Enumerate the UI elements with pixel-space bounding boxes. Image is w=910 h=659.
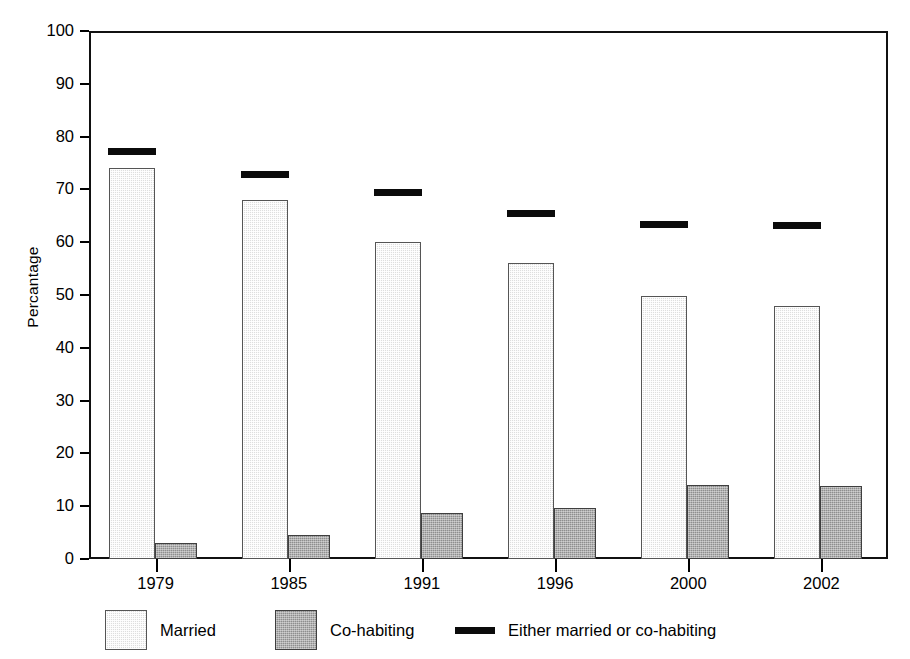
y-axis-tick-mark: [80, 505, 89, 507]
x-axis-tick-label: 1996: [510, 574, 600, 593]
y-axis-tick-mark: [80, 347, 89, 349]
y-axis-tick-label: 0: [28, 550, 74, 566]
x-axis-tick-mark: [289, 559, 291, 572]
legend-label: Co-habiting: [330, 621, 414, 640]
bar-cohabiting: [288, 535, 330, 559]
y-axis-tick-mark: [80, 188, 89, 190]
y-axis-tick-label: 40: [28, 339, 74, 355]
x-axis-tick-label: 1991: [377, 574, 467, 593]
legend-item: Co-habiting: [275, 607, 414, 653]
bar-cohabiting: [155, 543, 197, 559]
y-axis-tick-mark: [80, 452, 89, 454]
y-axis-tick-mark: [80, 294, 89, 296]
y-axis-tick-label: 100: [28, 22, 74, 38]
chart-legend: MarriedCo-habitingEither married or co-h…: [0, 607, 910, 655]
either-married-or-cohabiting-marker: [507, 210, 555, 217]
bar-chart: Percantage 0102030405060708090100 197919…: [0, 0, 910, 659]
x-axis-tick-label: 2002: [776, 574, 866, 593]
bar-cohabiting: [554, 508, 596, 559]
bar-married: [641, 296, 687, 559]
bar-cohabiting: [687, 485, 729, 559]
either-married-or-cohabiting-marker: [108, 148, 156, 155]
y-axis-tick-mark: [80, 558, 89, 560]
legend-swatch-icon: [105, 610, 147, 650]
bar-married: [375, 242, 421, 559]
y-axis-tick-mark: [80, 83, 89, 85]
y-axis-tick-label: 80: [28, 128, 74, 144]
either-married-or-cohabiting-marker: [773, 222, 821, 229]
legend-line-marker-icon: [455, 627, 495, 634]
y-axis-tick-label: 50: [28, 286, 74, 302]
x-axis-tick-mark: [422, 559, 424, 572]
y-axis-tick-label: 70: [28, 180, 74, 196]
either-married-or-cohabiting-marker: [640, 221, 688, 228]
y-axis-tick-labels: 0102030405060708090100: [14, 0, 74, 659]
bar-married: [508, 263, 554, 559]
bar-cohabiting: [421, 513, 463, 559]
bar-married: [109, 168, 155, 559]
y-axis-tick-label: 20: [28, 444, 74, 460]
legend-item: Either married or co-habiting: [455, 607, 716, 653]
x-axis-tick-mark: [688, 559, 690, 572]
x-axis-tick-mark: [156, 559, 158, 572]
bar-cohabiting: [820, 486, 862, 559]
y-axis-tick-mark: [80, 30, 89, 32]
plot-area: [89, 31, 888, 559]
bar-married: [242, 200, 288, 559]
y-axis-tick-label: 10: [28, 497, 74, 513]
bar-married: [774, 306, 820, 559]
y-axis-tick-label: 60: [28, 233, 74, 249]
y-axis-tick-label: 30: [28, 392, 74, 408]
y-axis-tick-label: 90: [28, 75, 74, 91]
either-married-or-cohabiting-marker: [374, 189, 422, 196]
x-axis-tick-mark: [821, 559, 823, 572]
legend-label: Either married or co-habiting: [508, 621, 716, 640]
x-axis-tick-mark: [555, 559, 557, 572]
legend-label: Married: [160, 621, 216, 640]
y-axis-tick-mark: [80, 136, 89, 138]
x-axis-tick-label: 1985: [244, 574, 334, 593]
legend-swatch-icon: [275, 610, 317, 650]
legend-item: Married: [105, 607, 216, 653]
y-axis-tick-mark: [80, 241, 89, 243]
y-axis-tick-mark: [80, 400, 89, 402]
x-axis-tick-label: 1979: [111, 574, 201, 593]
x-axis-tick-label: 2000: [643, 574, 733, 593]
either-married-or-cohabiting-marker: [241, 171, 289, 178]
